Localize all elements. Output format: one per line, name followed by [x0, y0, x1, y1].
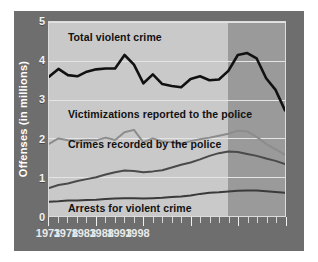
x-axis-tick	[238, 217, 239, 226]
x-axis-tick	[162, 217, 163, 223]
chart-figure: Offenses (in millions) 012345 Total viol…	[0, 0, 318, 262]
series-caption: Arrests for violent crime	[68, 202, 192, 214]
series-line	[49, 152, 285, 188]
x-axis-tick	[267, 217, 268, 223]
x-axis-tick	[248, 217, 249, 223]
x-axis-tick	[219, 217, 220, 223]
series-line	[49, 190, 285, 201]
x-axis-tick	[143, 217, 144, 226]
x-axis-tick	[86, 217, 87, 223]
series-line	[49, 53, 285, 110]
series-caption: Victimizations reported to the police	[68, 108, 252, 120]
x-axis-tick	[191, 217, 192, 226]
x-axis-tick	[48, 217, 49, 226]
y-axis-tick-label: 0	[39, 212, 45, 223]
x-axis-tick	[105, 217, 106, 223]
y-axis-tick-label: 3	[39, 94, 45, 105]
x-axis-tick	[153, 217, 154, 223]
x-axis-tick	[210, 217, 211, 223]
x-axis-tick	[115, 217, 116, 223]
x-axis-tick	[124, 217, 125, 223]
x-axis-tick	[276, 217, 277, 223]
x-axis-tick	[134, 217, 135, 223]
series-caption: Total violent crime	[68, 31, 162, 43]
x-axis-tick	[200, 217, 201, 223]
x-axis-tick	[286, 217, 287, 226]
y-axis-tick-label: 4	[39, 55, 45, 66]
x-axis-tick	[96, 217, 97, 226]
x-axis-tick	[181, 217, 182, 223]
x-axis-tick	[77, 217, 78, 223]
x-axis-labels: 197319781983198819931998	[34, 228, 300, 244]
x-axis-tick	[257, 217, 258, 223]
x-axis-tick	[229, 217, 230, 223]
x-axis-tick	[67, 217, 68, 223]
plot-area: Total violent crimeVictimizations report…	[48, 21, 286, 217]
y-axis-ticks: 012345	[14, 21, 48, 217]
x-axis-tick	[172, 217, 173, 223]
x-axis-tick	[58, 217, 59, 223]
series-caption: Crimes recorded by the police	[68, 138, 221, 150]
y-axis-tick-label: 1	[39, 172, 45, 183]
y-axis-tick-label: 2	[39, 133, 45, 144]
x-axis-ticks	[48, 217, 286, 226]
y-axis-tick-label: 5	[39, 16, 45, 27]
x-axis-tick-label: 1998	[125, 228, 149, 239]
